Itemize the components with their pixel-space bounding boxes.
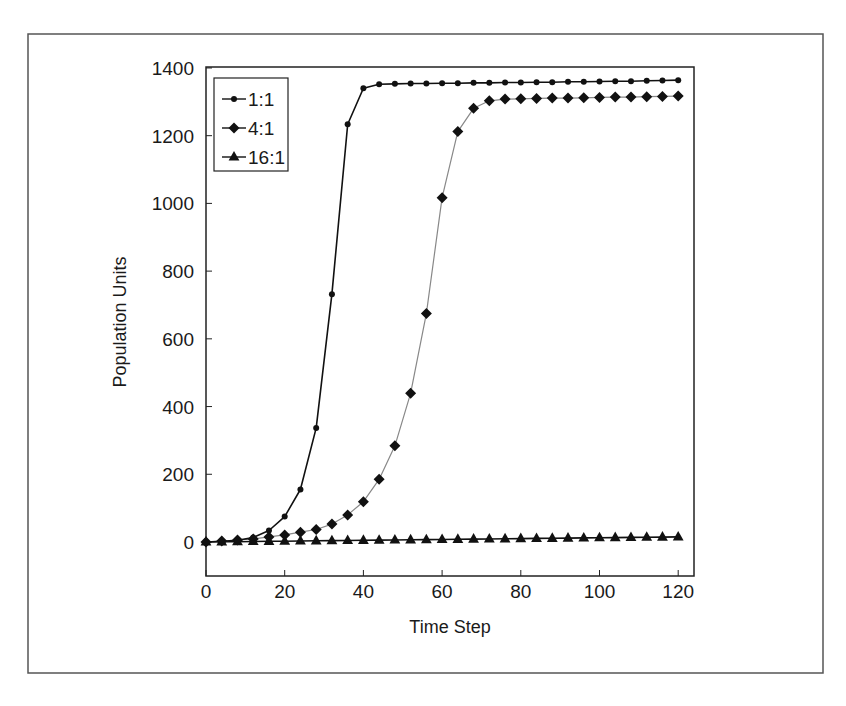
circle-marker [360, 85, 366, 91]
circle-marker [659, 77, 665, 83]
circle-marker [313, 425, 319, 431]
circle-marker [471, 80, 477, 86]
circle-marker [345, 121, 351, 127]
y-tick-label: 1200 [152, 126, 194, 147]
circle-marker [203, 539, 209, 545]
y-axis-title: Population Units [110, 256, 130, 387]
circle-marker [392, 81, 398, 87]
circle-marker [518, 80, 524, 86]
legend-label: 4:1 [248, 118, 274, 139]
circle-marker [486, 80, 492, 86]
circle-marker [644, 78, 650, 84]
circle-marker [219, 538, 225, 544]
circle-marker [266, 527, 272, 533]
circle-marker [675, 77, 681, 83]
x-tick-label: 20 [274, 581, 295, 602]
y-tick-label: 600 [162, 329, 194, 350]
circle-marker [502, 80, 508, 86]
y-tick-label: 1000 [152, 193, 194, 214]
circle-marker [597, 79, 603, 85]
legend-label: 16:1 [248, 147, 285, 168]
circle-marker [408, 81, 414, 87]
y-axis-tick-labels: 0200400600800100012001400 [152, 58, 194, 553]
legend-label: 1:1 [248, 89, 274, 110]
circle-marker [250, 535, 256, 541]
circle-marker [282, 514, 288, 520]
y-tick-label: 1400 [152, 58, 194, 79]
x-tick-label: 0 [201, 581, 212, 602]
y-tick-label: 800 [162, 261, 194, 282]
x-tick-label: 120 [662, 581, 694, 602]
circle-marker [455, 80, 461, 86]
circle-marker [581, 79, 587, 85]
x-axis-tick-labels: 020406080100120 [201, 581, 694, 602]
x-tick-label: 60 [432, 581, 453, 602]
circle-marker [628, 78, 634, 84]
circle-marker [439, 80, 445, 86]
circle-marker [612, 78, 618, 84]
x-tick-label: 100 [584, 581, 616, 602]
y-tick-label: 200 [162, 464, 194, 485]
circle-marker [329, 291, 335, 297]
circle-marker [376, 81, 382, 87]
y-tick-label: 400 [162, 397, 194, 418]
y-tick-label: 0 [183, 532, 194, 553]
x-tick-label: 80 [510, 581, 531, 602]
circle-marker [534, 79, 540, 85]
circle-marker [234, 537, 240, 543]
circle-marker [565, 79, 571, 85]
circle-marker [423, 81, 429, 87]
circle-marker [231, 96, 237, 102]
x-tick-label: 40 [353, 581, 374, 602]
circle-marker [549, 79, 555, 85]
x-axis-title: Time Step [409, 617, 490, 637]
chart-figure: 0200400600800100012001400 02040608010012… [0, 0, 846, 706]
circle-marker [297, 487, 303, 493]
legend: 1:14:116:1 [214, 78, 288, 171]
